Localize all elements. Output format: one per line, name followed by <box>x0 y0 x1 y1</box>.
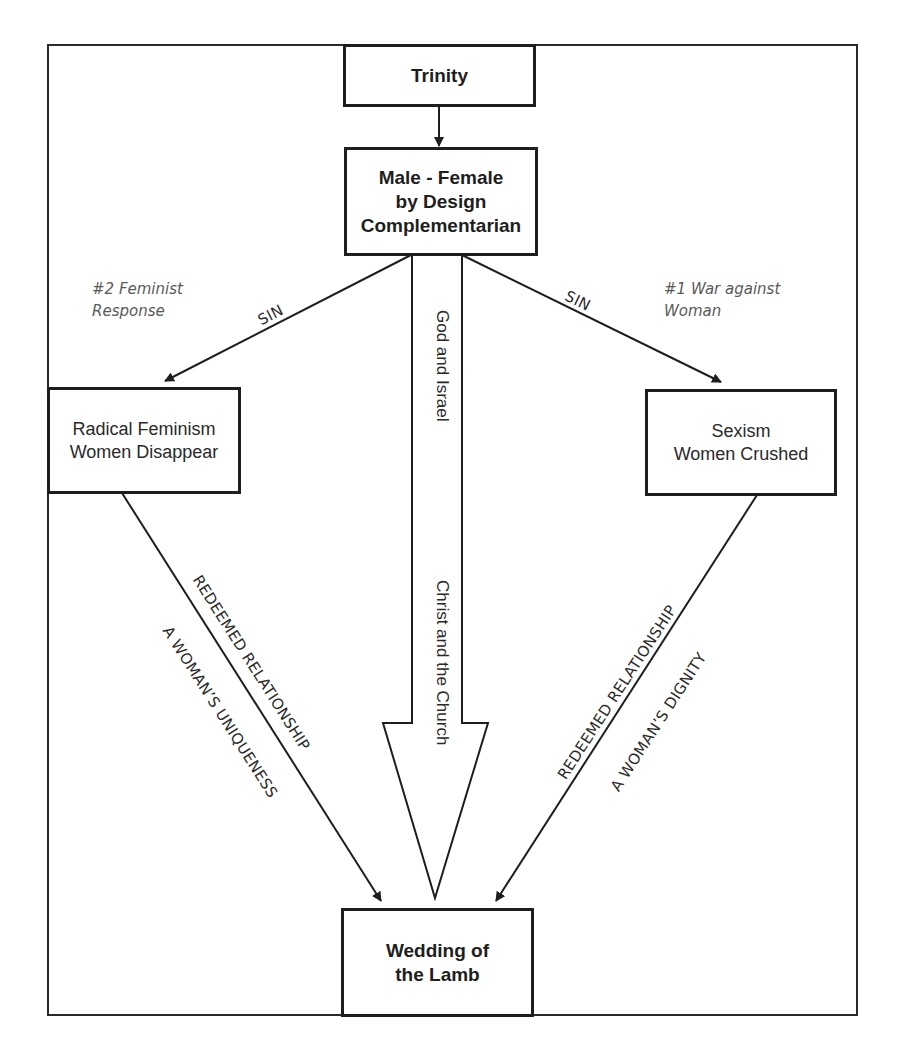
arrow-right-redeemed <box>496 495 757 901</box>
note-war-against-woman: #1 War against Woman <box>664 278 780 322</box>
node-male-female: Male - Female by Design Complementarian <box>344 147 538 256</box>
node-sexism-label: Sexism Women Crushed <box>674 420 809 466</box>
node-wedding-label: Wedding of the Lamb <box>386 939 489 987</box>
label-god-and-israel: God and Israel <box>432 310 452 422</box>
node-trinity-label: Trinity <box>411 64 468 88</box>
node-wedding-of-the-lamb: Wedding of the Lamb <box>341 908 534 1017</box>
node-radical-feminism: Radical Feminism Women Disappear <box>47 387 241 494</box>
node-sexism: Sexism Women Crushed <box>645 389 837 496</box>
label-christ-and-the-church: Christ and the Church <box>432 580 452 745</box>
node-male-female-label: Male - Female by Design Complementarian <box>361 166 521 238</box>
node-radical-feminism-label: Radical Feminism Women Disappear <box>70 418 219 464</box>
node-trinity: Trinity <box>343 44 536 107</box>
note-feminist-response: #2 Feminist Response <box>92 278 183 322</box>
arrow-left-redeemed <box>122 493 381 901</box>
arrow-sin-left <box>165 255 411 381</box>
